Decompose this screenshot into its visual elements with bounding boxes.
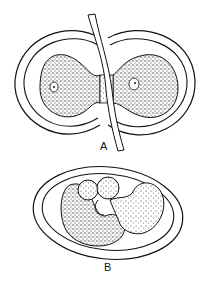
right-cell <box>113 55 178 118</box>
panel-a <box>15 14 195 151</box>
panel-b <box>29 159 188 266</box>
bud-right <box>97 177 119 199</box>
label-b: B <box>104 261 111 273</box>
bud-left <box>78 180 98 200</box>
right-nucleus <box>129 78 139 90</box>
label-a: A <box>100 140 107 152</box>
left-cell <box>40 55 100 117</box>
